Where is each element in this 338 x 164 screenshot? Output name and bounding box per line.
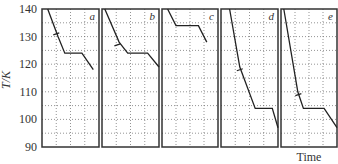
y-tick-label: 140 bbox=[19, 2, 37, 16]
panel-label: e bbox=[328, 10, 333, 22]
transition-mark bbox=[237, 69, 243, 71]
y-tick-label: 100 bbox=[19, 112, 37, 126]
y-tick-label: 120 bbox=[19, 57, 37, 71]
panel-label: d bbox=[269, 10, 275, 22]
cooling-curves-chart: 90100110120130140T/KTimeabcde bbox=[0, 0, 338, 164]
y-axis-label: T/K bbox=[0, 70, 13, 89]
cooling-curve-c bbox=[168, 9, 207, 42]
panel-label: a bbox=[90, 10, 96, 22]
cooling-curve-e bbox=[284, 9, 337, 128]
y-tick-label: 130 bbox=[19, 30, 37, 44]
y-tick-label: 90 bbox=[25, 140, 37, 154]
x-axis-label: Time bbox=[297, 150, 322, 164]
panel-label: c bbox=[209, 10, 214, 22]
transition-mark bbox=[114, 44, 120, 46]
chart-canvas: 90100110120130140T/KTimeabcde bbox=[0, 0, 338, 164]
cooling-curve-d bbox=[230, 9, 278, 128]
panel-label: b bbox=[150, 10, 156, 22]
y-tick-label: 110 bbox=[19, 85, 37, 99]
